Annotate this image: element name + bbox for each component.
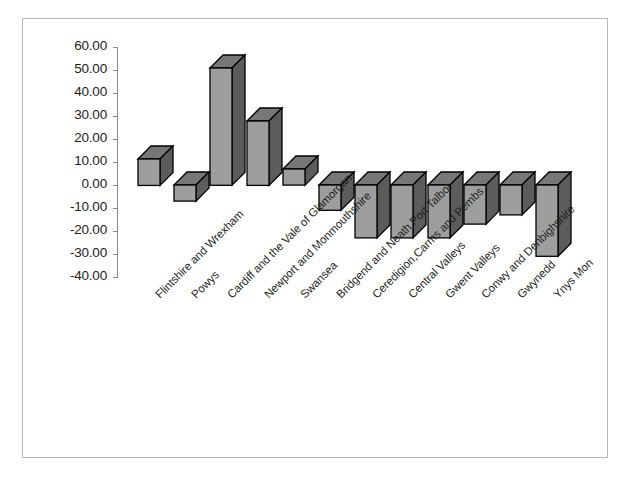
bar-column [283,156,320,187]
y-tick-mark [113,139,118,140]
y-tick-mark [113,47,118,48]
y-tick-label: 60.00 [33,38,107,53]
bar-column [247,108,284,187]
y-tick-label: 50.00 [33,61,107,76]
bar-column [210,55,247,187]
y-tick-label: -40.00 [33,268,107,283]
y-tick-label: -10.00 [33,199,107,214]
y-tick-mark [113,231,118,232]
bar-chart: 60.0050.0040.0030.0020.0010.000.00-10.00… [0,0,630,482]
y-tick-label: -20.00 [33,222,107,237]
bar-column [174,172,211,203]
y-tick-mark [113,116,118,117]
x-category-label: Powys [189,268,221,300]
y-tick-label: 30.00 [33,107,107,122]
y-tick-mark [113,70,118,71]
y-tick-mark [113,185,118,186]
y-tick-mark [113,162,118,163]
y-tick-mark [113,208,118,209]
bar-column [138,146,175,187]
y-tick-label: 0.00 [33,176,107,191]
y-tick-label: 40.00 [33,84,107,99]
y-tick-mark [113,254,118,255]
y-tick-mark [113,93,118,94]
y-tick-label: -30.00 [33,245,107,260]
y-tick-label: 20.00 [33,130,107,145]
x-category-label: Ynys Mon [551,256,595,300]
y-tick-mark [113,277,118,278]
y-tick-label: 10.00 [33,153,107,168]
bar-column [500,172,537,217]
